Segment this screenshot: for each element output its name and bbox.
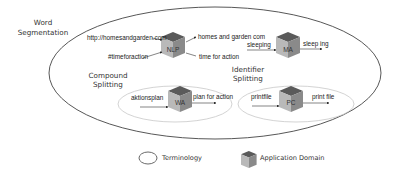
nlp-node: NLP http://homesandgarden.com #timeforac… xyxy=(87,32,265,60)
terminology-legend-icon xyxy=(139,152,157,164)
application-domain-legend-icon xyxy=(241,151,257,168)
nlp-output-hashtag: time for action xyxy=(199,53,240,60)
wa-cube-label: WA xyxy=(175,99,186,106)
wa-output: plan for action xyxy=(193,93,234,101)
nlp-output-url: homes and garden com xyxy=(198,33,265,41)
word-segmentation-label-2: Segmentation xyxy=(18,28,69,37)
legend-application-domain: Application Domain xyxy=(260,154,325,162)
legend: Terminology Application Domain xyxy=(139,151,325,168)
compound-splitting-label-2: Splitting xyxy=(93,80,123,89)
diagram-canvas: Word Segmentation Compound Splitting Ide… xyxy=(0,0,397,178)
pc-cube-label: PC xyxy=(286,99,295,106)
nlp-input-hashtag: #timeforaction xyxy=(108,53,149,60)
identifier-splitting-label-2: Splitting xyxy=(233,74,263,83)
legend-terminology: Terminology xyxy=(161,154,202,162)
wa-input: aktionsplan xyxy=(131,94,164,102)
nlp-input-url: http://homesandgarden.com xyxy=(87,34,167,42)
ma-cube-label: MA xyxy=(283,46,293,53)
ma-cube-icon xyxy=(276,32,300,58)
identifier-splitting-label-1: Identifier xyxy=(232,65,264,74)
pc-input: printfile xyxy=(251,93,272,101)
ma-output: sleep ing xyxy=(303,40,329,48)
word-segmentation-label-1: Word xyxy=(34,18,52,27)
pc-output: print file xyxy=(312,93,335,101)
pc-node: PC printfile print file xyxy=(251,86,335,112)
nlp-cube-label: NLP xyxy=(167,46,180,53)
wa-node: WA aktionsplan plan for action xyxy=(131,86,234,112)
compound-splitting-label-1: Compound xyxy=(88,71,127,80)
ma-input: sleeping xyxy=(247,41,271,49)
